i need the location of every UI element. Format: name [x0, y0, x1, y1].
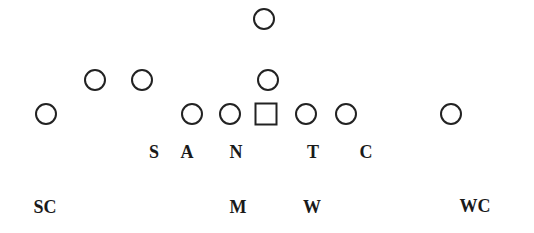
- offense-player-circle-icon: [131, 69, 153, 91]
- defense-label-m: M: [230, 198, 247, 216]
- defense-label-t: T: [307, 143, 319, 161]
- offense-player-circle-icon: [219, 103, 241, 125]
- defense-label-n: N: [230, 143, 243, 161]
- defense-label-wc: WC: [460, 197, 491, 215]
- offense-player-circle-icon: [181, 103, 203, 125]
- formation-diagram: SANTCSCMWWC: [0, 0, 534, 233]
- offense-player-circle-icon: [253, 8, 275, 30]
- defense-label-c: C: [360, 143, 373, 161]
- offense-player-circle-icon: [335, 103, 357, 125]
- offense-player-circle-icon: [295, 103, 317, 125]
- defense-label-w: W: [303, 198, 321, 216]
- offense-player-circle-icon: [35, 103, 57, 125]
- offense-player-circle-icon: [440, 103, 462, 125]
- defense-label-sc: SC: [33, 198, 56, 216]
- center-square-icon: [255, 103, 278, 126]
- offense-player-circle-icon: [84, 69, 106, 91]
- defense-label-a: A: [181, 143, 194, 161]
- defense-label-s: S: [149, 143, 159, 161]
- offense-player-circle-icon: [257, 69, 279, 91]
